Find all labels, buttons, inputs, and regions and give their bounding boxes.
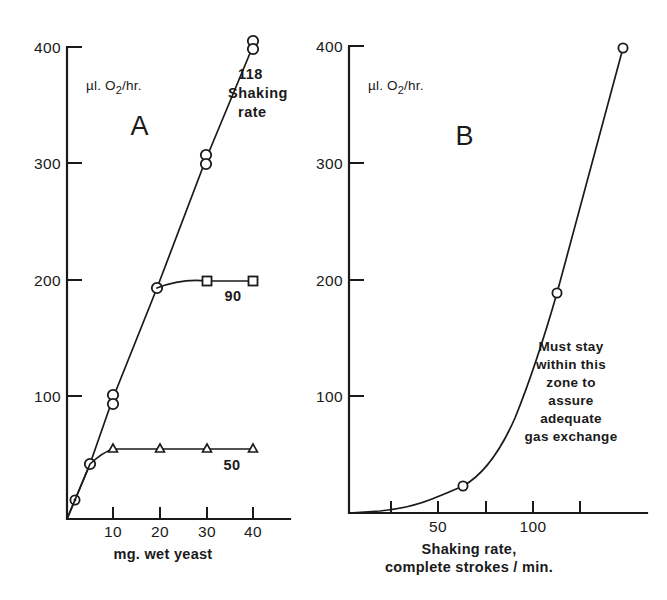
annotation-line-3: zone to (546, 375, 595, 390)
series-118-label-line3: rate (238, 104, 267, 120)
panel-a-ylabel-suffix: /hr. (122, 78, 142, 93)
panel-b-x-axis-title-line2: complete strokes / min. (385, 559, 553, 575)
panel-b-y-ticks (349, 46, 364, 396)
panel-b-letter: B (455, 121, 474, 151)
panel-b: 400 300 200 100 50 100 µl. O2/hr. Shakin… (316, 38, 647, 575)
annotation-line-6: gas exchange (525, 429, 618, 444)
y-tick-label-100: 100 (34, 388, 61, 405)
panel-a-y-ticks (67, 47, 82, 396)
x-tick-label-40: 40 (244, 523, 262, 540)
panel-a-x-ticks (113, 507, 253, 519)
panel-b-y-axis-title: µl. O2/hr. (368, 78, 424, 96)
series-90-label: 90 (224, 288, 241, 304)
panel-a-x-axis-title: mg. wet yeast (114, 546, 213, 562)
panel-a-y-axis-title: µl. O2/hr. (86, 78, 142, 96)
y-tick-label-200: 200 (316, 272, 343, 289)
figure-svg: 400 300 200 100 10 20 30 40 µl. O2/hr. m… (0, 0, 667, 600)
panel-a-ylabel-prefix: µl. O (86, 78, 116, 93)
y-tick-label-100: 100 (316, 388, 343, 405)
y-tick-label-400: 400 (34, 39, 61, 56)
x-tick-label-100: 100 (519, 518, 546, 535)
annotation-line-2: within this (535, 357, 606, 372)
data-point-118 (201, 159, 211, 169)
x-tick-label-20: 20 (151, 523, 169, 540)
data-point-50 (109, 444, 118, 452)
annotation-line-1: Must stay (539, 339, 604, 354)
series-118-label-rate: 118 (238, 66, 263, 82)
annotation-line-5: adequate (540, 411, 602, 426)
annotation-line-4: assure (548, 393, 594, 408)
data-point-b (458, 481, 467, 490)
y-tick-label-300: 300 (34, 155, 61, 172)
panel-b-x-axis-title-line1: Shaking rate, (422, 541, 517, 557)
y-tick-label-200: 200 (34, 272, 61, 289)
x-tick-label-50: 50 (429, 518, 447, 535)
data-point-118 (108, 399, 118, 409)
panel-a: 400 300 200 100 10 20 30 40 µl. O2/hr. m… (34, 36, 290, 562)
data-point-50 (249, 444, 258, 452)
data-point-b (618, 43, 627, 52)
x-tick-label-30: 30 (198, 523, 216, 540)
series-50-label: 50 (223, 457, 240, 473)
data-point-50 (203, 444, 212, 452)
panel-b-ylabel-prefix: µl. O (368, 78, 398, 93)
data-point-90 (203, 277, 212, 286)
x-tick-label-10: 10 (104, 523, 122, 540)
data-point-90 (249, 277, 258, 286)
figure-container: 400 300 200 100 10 20 30 40 µl. O2/hr. m… (0, 0, 667, 600)
y-tick-label-300: 300 (316, 155, 343, 172)
panel-b-ylabel-suffix: /hr. (404, 78, 424, 93)
data-point-b (552, 288, 561, 297)
series-118-legend: 118 Shaking rate (228, 66, 288, 120)
data-point-50 (156, 444, 165, 452)
series-50-markers (109, 444, 258, 452)
data-point-118 (248, 44, 258, 54)
panel-a-letter: A (130, 111, 149, 141)
series-118-label-line2: Shaking (228, 85, 288, 101)
y-tick-label-400: 400 (316, 38, 343, 55)
